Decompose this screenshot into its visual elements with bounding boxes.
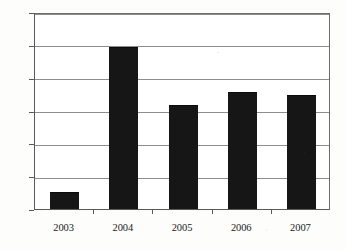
x-axis-tick-label: 2006 xyxy=(211,222,271,233)
bar xyxy=(50,192,79,209)
bar xyxy=(287,95,316,209)
plot-area xyxy=(34,13,330,210)
y-axis-tick-mark xyxy=(29,210,34,211)
gridline xyxy=(35,211,329,212)
x-axis-tick-mark xyxy=(271,210,272,214)
bar xyxy=(109,47,138,209)
bar-chart: 050100150200250300 20032004200520062007 xyxy=(0,0,346,250)
gridline xyxy=(35,14,329,15)
x-axis-tick-label: 2005 xyxy=(152,222,212,233)
gridline xyxy=(35,79,329,80)
bar xyxy=(228,92,257,209)
x-axis-tick-mark xyxy=(212,210,213,214)
gridline xyxy=(35,46,329,47)
x-axis-tick-label: 2004 xyxy=(93,222,153,233)
x-axis-tick-label: 2007 xyxy=(270,222,330,233)
x-axis-tick-mark xyxy=(152,210,153,214)
bar xyxy=(169,105,198,209)
x-axis-tick-mark xyxy=(93,210,94,214)
x-axis-tick-label: 2003 xyxy=(34,222,94,233)
